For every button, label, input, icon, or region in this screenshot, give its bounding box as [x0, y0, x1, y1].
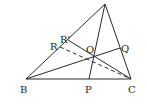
label-b: B: [20, 84, 27, 95]
label-r-prime: R': [60, 34, 70, 45]
label-r: R: [50, 41, 58, 52]
side-ac: [105, 4, 131, 79]
label-q: Q: [121, 43, 129, 54]
label-o: O: [86, 44, 94, 55]
label-c: C: [128, 84, 136, 95]
label-p: P: [85, 84, 92, 95]
cevian-ap: [89, 4, 105, 79]
triangle-diagram: B C P Q R R' O: [0, 0, 147, 104]
